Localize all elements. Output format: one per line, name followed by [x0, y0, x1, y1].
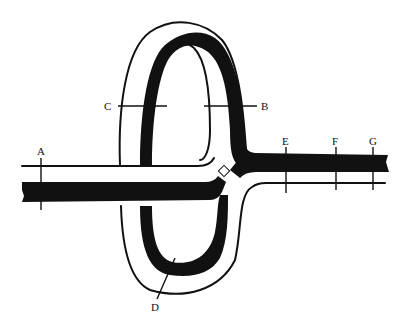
- label-a: A: [37, 145, 45, 157]
- junction-diamond: [218, 165, 229, 176]
- right-road-band: [230, 153, 389, 178]
- inner-loop-edge-line: [162, 43, 210, 160]
- lower-loop-band: [140, 195, 228, 276]
- label-f: F: [332, 135, 338, 147]
- left-road-band: [22, 176, 226, 202]
- label-c: C: [104, 100, 111, 112]
- label-e: E: [282, 135, 289, 147]
- label-b: B: [261, 100, 268, 112]
- label-d: D: [151, 301, 159, 313]
- label-g: G: [369, 135, 377, 147]
- left-road-upper-edge: [22, 158, 214, 166]
- interchange-diagram: A C B E F G D: [0, 0, 412, 333]
